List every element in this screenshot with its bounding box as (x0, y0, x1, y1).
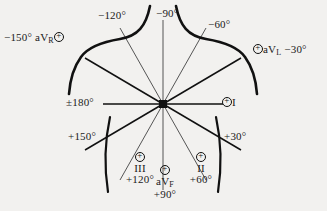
hexaxial-reference-diagram: −150° aVR −120° −90° −60° aVL −30° ±180°… (0, 0, 327, 211)
positive-pole-icon (196, 152, 206, 162)
label-lead-I: I (222, 97, 236, 108)
positive-pole-icon (222, 97, 232, 107)
positive-pole-icon (135, 152, 145, 162)
label-aVL-text: aVL (263, 43, 281, 55)
positive-pole-icon (160, 165, 170, 175)
label-plus-150-degrees: +150° (68, 131, 96, 142)
label-minus-60-degrees: −60° (208, 19, 230, 30)
label-lead-I-text: I (232, 96, 236, 108)
label-aVR-minus150: −150° aVR (4, 32, 64, 45)
label-plus-60-degrees: +60° (181, 174, 221, 185)
label-minus-30-degrees: −30° (284, 43, 306, 55)
label-plus-minus-180-degrees: ±180° (66, 97, 94, 108)
label-minus-120-degrees: −120° (98, 10, 126, 21)
label-aVR-text: aVR (35, 31, 54, 43)
label-aVL-minus30: aVL −30° (253, 44, 307, 57)
label-plus-30-degrees: +30° (224, 131, 246, 142)
positive-pole-icon (253, 44, 263, 54)
label-minus-150-degrees: −150° (4, 31, 32, 43)
label-minus-90-degrees: −90° (156, 8, 178, 19)
center-point-marker (159, 100, 167, 108)
label-lead-II-group: II +60° (181, 152, 221, 185)
label-aVF-group: aVF +90° (145, 165, 185, 200)
left-torso-side (106, 117, 110, 192)
positive-pole-icon (54, 32, 64, 42)
label-plus-90-degrees: +90° (145, 189, 185, 200)
